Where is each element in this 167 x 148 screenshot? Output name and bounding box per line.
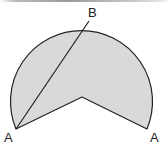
label-a-right: A [150, 130, 159, 145]
label-b: B [88, 5, 97, 20]
sector-diagram: A A B [0, 0, 167, 148]
label-a-left: A [4, 130, 13, 145]
sector-shape [10, 31, 152, 129]
